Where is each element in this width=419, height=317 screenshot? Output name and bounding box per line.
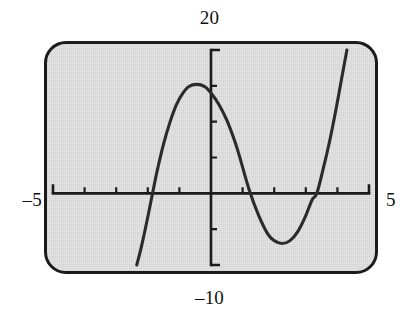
window-ymin-label: –10 <box>0 288 419 307</box>
calculator-graph-figure: 20 –5 5 –10 <box>0 0 419 317</box>
y-axis <box>211 50 220 265</box>
window-xmax-label: 5 <box>386 190 416 209</box>
plot-area <box>44 41 378 274</box>
curve-path <box>137 50 347 265</box>
calculator-screen <box>44 41 378 274</box>
window-xmin-label: –5 <box>6 190 42 209</box>
window-ymax-label: 20 <box>0 8 419 27</box>
function-curve <box>137 50 347 265</box>
